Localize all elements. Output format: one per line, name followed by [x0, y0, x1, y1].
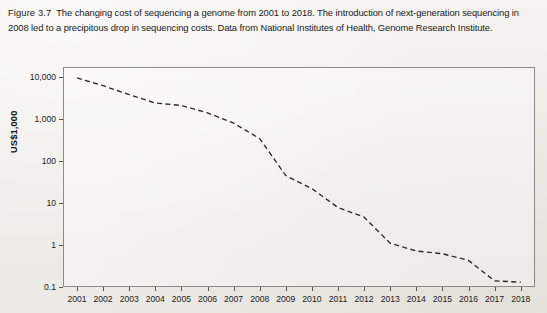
- y-tick-label: 1: [51, 240, 56, 250]
- y-tick-mark: [59, 287, 63, 288]
- x-tick-mark: [338, 287, 339, 291]
- x-tick-label: 2017: [485, 294, 504, 304]
- x-tick-mark: [312, 287, 313, 291]
- x-tick-mark: [208, 287, 209, 291]
- x-tick-label: 2003: [120, 294, 139, 304]
- x-tick-label: 2010: [302, 294, 321, 304]
- x-tick-label: 2004: [146, 294, 165, 304]
- x-tick-mark: [234, 287, 235, 291]
- x-tick-mark: [469, 287, 470, 291]
- plot-area: [63, 67, 535, 287]
- y-tick-label: 0.1: [44, 282, 56, 292]
- y-tick-label: 10: [46, 198, 56, 208]
- y-tick-label: 10,000: [30, 72, 56, 82]
- x-tick-label: 2014: [407, 294, 426, 304]
- x-tick-label: 2002: [94, 294, 113, 304]
- x-tick-label: 2001: [67, 294, 86, 304]
- x-tick-mark: [181, 287, 182, 291]
- x-tick-mark: [103, 287, 104, 291]
- x-tick-mark: [286, 287, 287, 291]
- x-tick-label: 2008: [250, 294, 269, 304]
- x-tick-mark: [442, 287, 443, 291]
- x-tick-label: 2015: [433, 294, 452, 304]
- x-tick-label: 2011: [329, 294, 347, 304]
- x-tick-label: 2016: [459, 294, 478, 304]
- y-axis-title: US$1,000: [9, 111, 19, 153]
- x-tick-label: 2006: [198, 294, 217, 304]
- x-tick-label: 2012: [355, 294, 374, 304]
- y-tick-label: 100: [42, 156, 56, 166]
- y-tick-label: 1,000: [34, 114, 56, 124]
- x-tick-mark: [260, 287, 261, 291]
- x-tick-label: 2013: [381, 294, 400, 304]
- x-tick-label: 2007: [224, 294, 243, 304]
- sequencing-cost-chart: US$1,000 10,0001,0001001010.1 2001200220…: [0, 0, 547, 313]
- x-tick-mark: [129, 287, 130, 291]
- x-tick-mark: [521, 287, 522, 291]
- x-tick-label: 2018: [511, 294, 530, 304]
- x-tick-mark: [390, 287, 391, 291]
- x-tick-mark: [364, 287, 365, 291]
- x-tick-label: 2005: [172, 294, 191, 304]
- x-tick-mark: [155, 287, 156, 291]
- x-tick-label: 2009: [276, 294, 295, 304]
- x-tick-mark: [77, 287, 78, 291]
- x-tick-mark: [416, 287, 417, 291]
- x-tick-mark: [495, 287, 496, 291]
